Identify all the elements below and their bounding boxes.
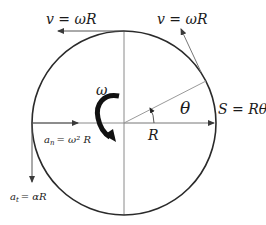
centripetal-accel-expression: = ω² R (56, 134, 91, 145)
radius-label: R (147, 127, 159, 143)
velocity-tangent-arrow (181, 29, 201, 72)
rotation-arrow-icon (97, 96, 119, 142)
arc-length-label: S = Rθ (218, 101, 266, 117)
circular-motion-diagram: v = ωR v = ωR ω θ S = Rθ R an= ω² R at= … (0, 0, 266, 225)
tangential-accel-expression: = αR (21, 191, 47, 202)
angle-theta-label: θ (180, 98, 190, 118)
velocity-tangent-label: v = ωR (157, 11, 208, 27)
tangential-accel-subscript: t (16, 196, 19, 204)
centripetal-accel-subscript: n (50, 139, 55, 147)
centripetal-accel-label: an= ω² R (44, 134, 91, 147)
velocity-top-label: v = ωR (46, 11, 97, 27)
tangential-accel-label: at= αR (10, 191, 47, 204)
angular-velocity-label: ω (96, 82, 108, 98)
angled-radius (124, 81, 206, 123)
angle-arc (150, 108, 154, 123)
